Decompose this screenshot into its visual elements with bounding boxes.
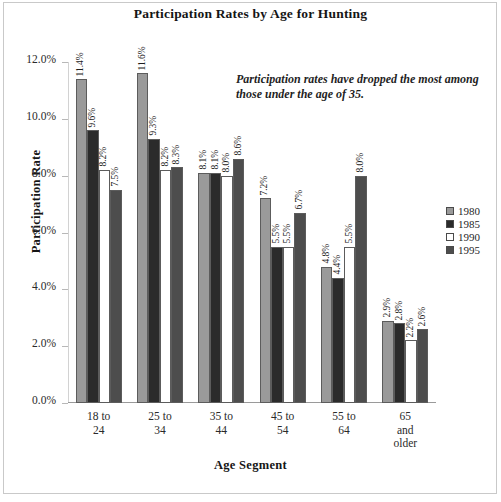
y-axis-tick: 12.0% — [0, 62, 68, 63]
y-axis-tick-label: 4.0% — [32, 280, 56, 292]
y-axis-tick: 10.0% — [0, 119, 68, 120]
bar-value-label: 6.7% — [294, 190, 304, 210]
bar[interactable]: 8.0% — [221, 176, 233, 403]
chart-title: Participation Rates by Age for Hunting — [0, 6, 501, 22]
x-axis-tick-label-line: 35 to — [191, 410, 252, 424]
bar-value-label: 7.2% — [260, 176, 270, 196]
y-axis-tick: 2.0% — [0, 346, 68, 347]
bar[interactable]: 9.3% — [148, 139, 160, 403]
bar[interactable]: 8.1% — [210, 173, 222, 403]
bar[interactable]: 8.6% — [233, 159, 245, 403]
bar-value-label: 8.0% — [356, 153, 366, 173]
bar-value-label: 8.1% — [210, 150, 220, 170]
bar[interactable]: 2.2% — [405, 340, 417, 403]
bar[interactable]: 8.2% — [99, 170, 111, 403]
bar-value-label: 2.6% — [417, 306, 427, 326]
legend-color-swatch — [446, 220, 454, 228]
legend-label: 1980 — [458, 205, 480, 217]
bar-value-label: 11.6% — [137, 46, 147, 70]
y-axis-tick-mark — [62, 403, 68, 404]
bar-value-label: 4.4% — [333, 255, 343, 275]
bar-value-label: 8.1% — [199, 150, 209, 170]
x-axis-tick-label-line: 65 — [375, 410, 436, 424]
bar[interactable]: 5.5% — [344, 247, 356, 403]
bar-value-label: 2.8% — [394, 301, 404, 321]
bar-value-label: 5.5% — [344, 224, 354, 244]
bar-value-label: 5.5% — [283, 224, 293, 244]
bar[interactable]: 7.2% — [260, 198, 272, 403]
x-axis-tick-label-line: 34 — [129, 424, 190, 438]
bar-value-label: 7.5% — [110, 167, 120, 187]
y-axis-tick: 6.0% — [0, 233, 68, 234]
y-axis-tick: 4.0% — [0, 289, 68, 290]
legend: 1980198519901995 — [446, 204, 496, 256]
y-axis-tick: 0.0% — [0, 403, 68, 404]
bar[interactable]: 2.9% — [382, 321, 394, 403]
bar-value-label: 2.2% — [406, 318, 416, 338]
bar-group: 2.9%2.8%2.2%2.6% — [375, 62, 436, 403]
bar[interactable]: 2.6% — [417, 329, 429, 403]
x-axis-tick-label: 18 to24 — [68, 410, 129, 437]
y-axis-tick-label: 0.0% — [32, 394, 56, 406]
bar-value-label: 4.8% — [321, 244, 331, 264]
bar[interactable]: 8.3% — [171, 167, 183, 403]
x-axis-tick-label: 35 to44 — [191, 410, 252, 437]
x-axis-tick-label-line: 55 to — [313, 410, 374, 424]
bar[interactable]: 4.4% — [332, 278, 344, 403]
bar-group: 11.4%9.6%8.2%7.5% — [68, 62, 129, 403]
y-axis-tick-label: 6.0% — [32, 224, 56, 236]
bar[interactable]: 9.6% — [87, 130, 99, 403]
bar-value-label: 8.6% — [233, 136, 243, 156]
bar-value-label: 8.2% — [160, 147, 170, 167]
x-axis-tick-label-line: 18 to — [68, 410, 129, 424]
bar-value-label: 8.3% — [172, 144, 182, 164]
legend-color-swatch — [446, 207, 454, 215]
x-axis-tick-label-line: 25 to — [129, 410, 190, 424]
bar-group: 8.1%8.1%8.0%8.6% — [191, 62, 252, 403]
y-axis-tick-label: 8.0% — [32, 167, 56, 179]
bar[interactable]: 4.8% — [321, 267, 333, 403]
bar-value-label: 5.5% — [271, 224, 281, 244]
x-axis-title: Age Segment — [0, 458, 501, 473]
legend-item-1980[interactable]: 1980 — [446, 204, 496, 217]
bar[interactable]: 8.1% — [198, 173, 210, 403]
x-axis-tick-label: 45 to54 — [252, 410, 313, 437]
x-axis-tick-label: 25 to34 — [129, 410, 190, 437]
bar[interactable]: 5.5% — [271, 247, 283, 403]
x-axis-tick-label: 55 to64 — [313, 410, 374, 437]
legend-label: 1990 — [458, 231, 480, 243]
x-axis-tick-label-line: 64 — [313, 424, 374, 438]
legend-color-swatch — [446, 246, 454, 254]
bar[interactable]: 5.5% — [283, 247, 295, 403]
legend-label: 1985 — [458, 218, 480, 230]
bar[interactable]: 8.0% — [355, 176, 367, 403]
bar-value-label: 11.4% — [76, 52, 86, 76]
bar[interactable]: 6.7% — [294, 213, 306, 403]
legend-label: 1995 — [458, 244, 480, 256]
x-axis-tick-label-line: 54 — [252, 424, 313, 438]
y-axis-title: Participation Rate — [29, 102, 44, 302]
x-axis-tick-label-line: older — [375, 437, 436, 451]
x-axis-tick-label-line: 45 to — [252, 410, 313, 424]
bar-value-label: 9.3% — [149, 116, 159, 136]
legend-item-1990[interactable]: 1990 — [446, 230, 496, 243]
y-axis-tick-label: 12.0% — [26, 53, 56, 65]
bar-group: 11.6%9.3%8.2%8.3% — [129, 62, 190, 403]
bar-value-label: 9.6% — [87, 107, 97, 127]
bar[interactable]: 7.5% — [110, 190, 122, 403]
legend-item-1985[interactable]: 1985 — [446, 217, 496, 230]
bar-group: 7.2%5.5%5.5%6.7% — [252, 62, 313, 403]
bar-value-label: 8.0% — [222, 153, 232, 173]
bar[interactable]: 11.4% — [76, 79, 88, 403]
x-axis-tick-label-line: and — [375, 424, 436, 438]
legend-item-1995[interactable]: 1995 — [446, 243, 496, 256]
chart-container: Participation Rates by Age for Hunting P… — [0, 0, 501, 502]
legend-color-swatch — [446, 233, 454, 241]
x-axis-tick-label: 65andolder — [375, 410, 436, 451]
bar-value-label: 8.2% — [99, 147, 109, 167]
bar-group: 4.8%4.4%5.5%8.0% — [313, 62, 374, 403]
bar[interactable]: 8.2% — [160, 170, 172, 403]
y-axis-tick: 8.0% — [0, 176, 68, 177]
y-axis-tick-label: 10.0% — [26, 110, 56, 122]
x-axis-tick-label-line: 24 — [68, 424, 129, 438]
